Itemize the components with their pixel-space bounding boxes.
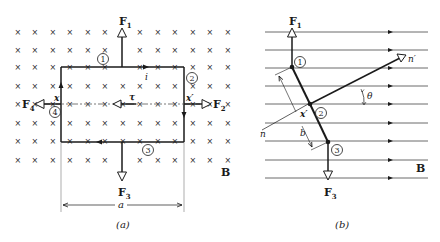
field-cross-icon: × [206, 46, 213, 55]
field-cross-icon: × [224, 46, 231, 55]
side-label-1-a: 1 [101, 55, 106, 64]
label-f1-b: F1 [289, 15, 302, 30]
field-cross-icon: × [49, 156, 56, 165]
field-cross-icon: × [224, 28, 231, 37]
field-cross-icon: × [49, 119, 56, 128]
field-cross-icon: × [14, 100, 21, 109]
field-cross-icon: × [136, 156, 143, 165]
field-cross-icon: × [49, 28, 56, 37]
normal-n-label: n [260, 129, 266, 139]
normal-n-prime-label: n′ [408, 54, 416, 64]
normal-n-prime-arrow [310, 54, 406, 104]
side-label-4-a: 4 [53, 108, 58, 117]
dimension-b-label: b [300, 128, 306, 138]
field-cross-icon: × [171, 156, 178, 165]
field-cross-icon: × [31, 82, 38, 91]
field-cross-icon: × [31, 137, 38, 146]
side-label-2-a: 2 [190, 74, 195, 83]
field-cross-icon: × [31, 156, 38, 165]
field-cross-icon: × [101, 156, 108, 165]
current-arrow-left [59, 82, 64, 88]
field-cross-icon: × [189, 119, 196, 128]
field-cross-icon: × [206, 119, 213, 128]
current-arrow-top [143, 65, 149, 70]
field-cross-icon: × [84, 156, 91, 165]
side-label-1-b: 1 [298, 58, 303, 67]
field-cross-icon: × [206, 137, 213, 146]
panel-a: ××××××××××××××××××××××××××××××××××××××××… [14, 28, 231, 212]
field-cross-icon: × [206, 82, 213, 91]
field-cross-icon: × [14, 63, 21, 72]
field-cross-icon: × [66, 119, 73, 128]
magnetic-field-into-page-crosses: ××××××××××××××××××××××××××××××××××××××××… [14, 28, 231, 165]
field-cross-icon: × [31, 63, 38, 72]
field-cross-icon: × [224, 119, 231, 128]
dimension-a-label: a [118, 199, 124, 210]
field-cross-icon: × [14, 137, 21, 146]
field-cross-icon: × [206, 156, 213, 165]
force-f3-arrow [118, 142, 127, 181]
field-cross-icon: × [224, 156, 231, 165]
field-cross-icon: × [171, 28, 178, 37]
field-cross-icon: × [154, 156, 161, 165]
label-f1-a: F1 [119, 15, 132, 30]
figure: ××××××××××××××××××××××××××××××××××××××××… [0, 0, 440, 242]
field-cross-icon: × [14, 82, 21, 91]
field-cross-icon: × [66, 28, 73, 37]
field-label-a: B [221, 166, 230, 179]
field-cross-icon: × [14, 119, 21, 128]
current-arrow-bottom [96, 140, 102, 145]
field-cross-icon: × [49, 46, 56, 55]
field-cross-icon: × [224, 82, 231, 91]
field-cross-icon: × [66, 156, 73, 165]
field-cross-icon: × [224, 137, 231, 146]
field-cross-icon: × [119, 82, 126, 91]
field-cross-icon: × [189, 46, 196, 55]
field-cross-icon: × [49, 82, 56, 91]
axis-x-label-a: x [53, 93, 60, 103]
current-arrow-right [182, 112, 187, 118]
side-label-3-b: 3 [335, 146, 340, 155]
field-cross-icon: × [136, 46, 143, 55]
field-cross-icon: × [14, 28, 21, 37]
field-cross-icon: × [154, 28, 161, 37]
field-cross-icon: × [171, 46, 178, 55]
field-cross-icon: × [49, 63, 56, 72]
field-cross-icon: × [154, 46, 161, 55]
field-cross-icon: × [224, 63, 231, 72]
field-cross-icon: × [84, 82, 91, 91]
label-f3-b: F3 [324, 186, 337, 201]
field-cross-icon: × [14, 156, 21, 165]
field-cross-icon: × [66, 82, 73, 91]
field-cross-icon: × [189, 137, 196, 146]
loop-edge-view [290, 65, 331, 145]
torque-label: τ [129, 92, 136, 102]
field-cross-icon: × [189, 28, 196, 37]
field-cross-icon: × [101, 82, 108, 91]
axis-x-prime-label-b: x′ [299, 109, 308, 119]
field-cross-icon: × [49, 137, 56, 146]
field-cross-icon: × [189, 156, 196, 165]
field-cross-icon: × [31, 119, 38, 128]
field-cross-icon: × [14, 46, 21, 55]
side-label-3-a: 3 [146, 146, 151, 155]
field-cross-icon: × [189, 63, 196, 72]
field-cross-icon: × [154, 82, 161, 91]
field-cross-icon: × [171, 82, 178, 91]
force-f1-arrow [118, 28, 127, 67]
field-cross-icon: × [136, 82, 143, 91]
field-cross-icon: × [206, 63, 213, 72]
theta-label: θ [367, 91, 373, 101]
field-cross-icon: × [31, 46, 38, 55]
magnetic-field-lines [265, 30, 428, 180]
current-label: i [145, 72, 148, 82]
force-f3-arrow-b [324, 142, 333, 180]
field-cross-icon: × [31, 28, 38, 37]
field-cross-icon: × [206, 28, 213, 37]
field-cross-icon: × [136, 119, 143, 128]
side-label-2-b: 2 [319, 109, 324, 118]
caption-a: (a) [116, 219, 130, 230]
caption-b: (b) [335, 219, 349, 230]
field-cross-icon: × [136, 28, 143, 37]
field-cross-icon: × [119, 119, 126, 128]
